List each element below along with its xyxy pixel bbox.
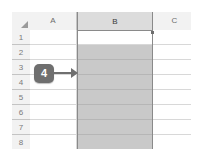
row-header-6-label: 6: [19, 108, 23, 117]
row-header-3[interactable]: 3: [12, 60, 30, 75]
column-header-b[interactable]: B: [77, 12, 153, 31]
cell-B6[interactable]: [77, 105, 153, 120]
row-header-4[interactable]: 4: [12, 75, 30, 90]
row-header-5-label: 5: [19, 93, 23, 102]
cell-C2[interactable]: [153, 45, 191, 60]
select-all-corner[interactable]: [12, 12, 30, 30]
callout-arrow-shaft: [54, 72, 72, 74]
cell-C3[interactable]: [153, 60, 191, 75]
row-header-3-label: 3: [19, 63, 23, 72]
column-header-b-label: B: [112, 17, 117, 26]
column-header-a-label: A: [50, 16, 55, 25]
row-header-7-label: 7: [19, 123, 23, 132]
row-header-8-label: 8: [19, 138, 23, 147]
column-header-c[interactable]: C: [153, 12, 191, 30]
cell-B7[interactable]: [77, 120, 153, 135]
fill-handle[interactable]: [151, 31, 154, 34]
spreadsheet-screenshot: 1 2 3 4 5 6 7 8 A B C 4: [0, 0, 203, 149]
cell-B8[interactable]: [77, 135, 153, 149]
cell-B1[interactable]: [77, 30, 153, 45]
step-number-badge: 4: [34, 64, 54, 83]
cell-C6[interactable]: [153, 105, 191, 120]
row-header-2-label: 2: [19, 48, 23, 57]
cell-C1[interactable]: [153, 30, 191, 45]
cell-B2[interactable]: [77, 45, 153, 60]
cell-A1[interactable]: [30, 30, 77, 45]
cell-C4[interactable]: [153, 75, 191, 90]
cell-A5[interactable]: [30, 90, 77, 105]
cell-C5[interactable]: [153, 90, 191, 105]
callout-arrow-head-icon: [71, 68, 78, 78]
row-header-1-label: 1: [19, 33, 23, 42]
cell-A2[interactable]: [30, 45, 77, 60]
cell-A8[interactable]: [30, 135, 77, 149]
row-header-5[interactable]: 5: [12, 90, 30, 105]
row-header-2[interactable]: 2: [12, 45, 30, 60]
select-all-triangle-icon: [21, 21, 28, 28]
row-header-6[interactable]: 6: [12, 105, 30, 120]
cell-B3[interactable]: [77, 60, 153, 75]
cell-C8[interactable]: [153, 135, 191, 149]
column-header-a[interactable]: A: [30, 12, 77, 30]
row-header-4-label: 4: [19, 78, 23, 87]
row-header-1[interactable]: 1: [12, 30, 30, 45]
cell-B5[interactable]: [77, 90, 153, 105]
row-header-7[interactable]: 7: [12, 120, 30, 135]
cell-A7[interactable]: [30, 120, 77, 135]
cell-B4[interactable]: [77, 75, 153, 90]
row-header-8[interactable]: 8: [12, 135, 30, 149]
cell-A6[interactable]: [30, 105, 77, 120]
column-header-c-label: C: [172, 16, 178, 25]
cell-C7[interactable]: [153, 120, 191, 135]
